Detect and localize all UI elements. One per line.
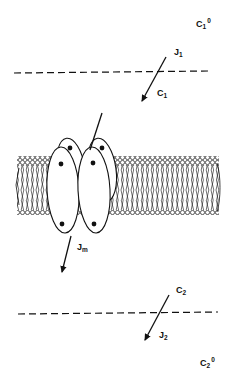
flux-jm-arrow-lower bbox=[62, 236, 71, 272]
bulk-concentration-top-label: C10 bbox=[196, 17, 211, 30]
transport-protein-complex bbox=[45, 136, 121, 233]
membrane-transport-diagram: C10 J1 C1 J bbox=[0, 0, 231, 383]
flux-j1-label: J1 bbox=[174, 47, 183, 58]
flux-jm-label: Jm bbox=[77, 242, 88, 253]
bulk-concentration-bottom-label: C20 bbox=[200, 356, 215, 369]
boundary-layer-top-line bbox=[14, 71, 210, 73]
interface-concentration-c1-label: C1 bbox=[157, 88, 168, 99]
interface-concentration-c2-label: C2 bbox=[176, 285, 187, 296]
flux-j2-label: J2 bbox=[159, 330, 168, 341]
boundary-layer-bottom-line bbox=[18, 312, 218, 314]
